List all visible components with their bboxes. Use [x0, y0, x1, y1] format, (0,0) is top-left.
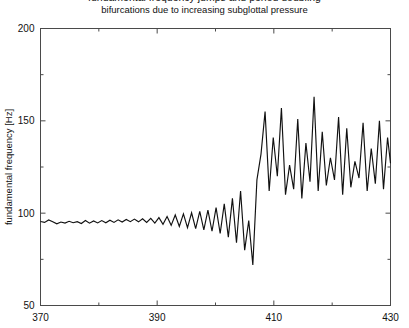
chart-figure: fundamental frequency jumps and period d…: [0, 0, 409, 328]
plot-frame: [41, 29, 391, 306]
x-axis-tick-labels: 370390410430: [32, 312, 399, 323]
y-tick-label: 200: [18, 23, 35, 34]
y-axis-label-text: fundamental frequency [Hz]: [3, 109, 14, 225]
x-tick-label: 410: [265, 312, 282, 323]
x-tick-label: 390: [149, 312, 166, 323]
plot-area: 370390410430 50100150200 fundamental fre…: [0, 0, 409, 328]
data-series-group: [41, 97, 391, 265]
y-axis-tick-labels: 50100150200: [18, 23, 35, 311]
y-tick-label: 100: [18, 208, 35, 219]
x-tick-label: 430: [382, 312, 399, 323]
y-tick-label: 150: [18, 115, 35, 126]
axis-ticks: [41, 29, 391, 306]
y-tick-label: 50: [23, 300, 35, 311]
data-series-line: [41, 97, 391, 265]
x-tick-label: 370: [32, 312, 49, 323]
y-axis-label: fundamental frequency [Hz]: [3, 109, 14, 225]
